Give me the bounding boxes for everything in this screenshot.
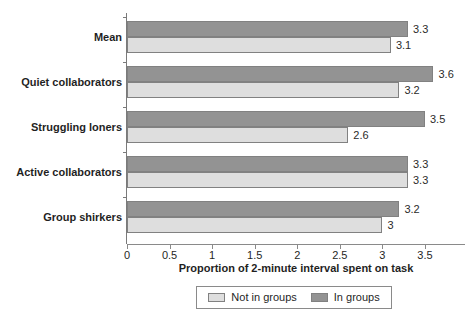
bar-in-groups — [127, 201, 399, 217]
y-axis-tick — [123, 107, 127, 108]
bar-in-groups — [127, 21, 408, 37]
bar-value-label: 3.6 — [438, 69, 453, 80]
bar-in-groups — [127, 111, 425, 127]
y-axis-tick — [123, 17, 127, 18]
legend-label-not-in-groups: Not in groups — [231, 292, 296, 303]
legend-entry-in-groups: In groups — [311, 292, 380, 303]
x-axis-tick-label: 0.5 — [162, 250, 177, 261]
x-axis-tick-label: 1.5 — [247, 250, 262, 261]
bar-not-in-groups — [127, 127, 348, 143]
x-axis-tick-label: 2 — [294, 250, 300, 261]
y-axis-tick — [123, 152, 127, 153]
chart-legend: Not in groups In groups — [196, 286, 392, 309]
plot-area: 3.33.13.63.23.52.63.33.33.23 — [127, 13, 465, 244]
legend-label-in-groups: In groups — [334, 292, 380, 303]
bar-not-in-groups — [127, 82, 399, 98]
y-axis-label-struggling-loners: Struggling loners — [31, 122, 122, 133]
y-axis-category-labels: MeanQuiet collaboratorsStruggling loners… — [0, 0, 122, 324]
legend-entry-not-in-groups: Not in groups — [208, 292, 296, 303]
x-axis-title: Proportion of 2-minute interval spent on… — [127, 262, 465, 274]
bar-value-label: 3.3 — [413, 159, 428, 170]
x-axis-tick-label: 3 — [379, 250, 385, 261]
bar-chart-figure: MeanQuiet collaboratorsStruggling loners… — [0, 0, 474, 324]
y-axis-label-quiet-collaborators: Quiet collaborators — [21, 77, 122, 88]
x-axis-tick-label: 1 — [209, 250, 215, 261]
bar-value-label: 3.5 — [430, 114, 445, 125]
y-axis-tick — [123, 62, 127, 63]
x-axis-tick-label: 3.5 — [417, 250, 432, 261]
y-axis-label-mean: Mean — [94, 32, 122, 43]
bar-not-in-groups — [127, 37, 391, 53]
bar-not-in-groups — [127, 172, 408, 188]
bar-value-label: 3.2 — [404, 85, 419, 96]
x-axis-tick-label: 2.5 — [332, 250, 347, 261]
bar-value-label: 2.6 — [353, 130, 368, 141]
bar-value-label: 3.3 — [413, 24, 428, 35]
y-axis-label-group-shirkers: Group shirkers — [43, 212, 122, 223]
bar-value-label: 3.2 — [404, 204, 419, 215]
bar-value-label: 3.3 — [413, 175, 428, 186]
y-axis-tick — [123, 197, 127, 198]
x-axis-tick-label: 0 — [124, 250, 130, 261]
bar-value-label: 3 — [387, 220, 393, 231]
legend-swatch-not-in-groups — [208, 293, 225, 302]
y-axis-label-active-collaborators: Active collaborators — [16, 167, 122, 178]
bar-value-label: 3.1 — [396, 40, 411, 51]
legend-swatch-in-groups — [311, 293, 328, 302]
bar-in-groups — [127, 66, 433, 82]
bar-in-groups — [127, 156, 408, 172]
x-axis-line — [127, 244, 465, 245]
bar-not-in-groups — [127, 217, 382, 233]
